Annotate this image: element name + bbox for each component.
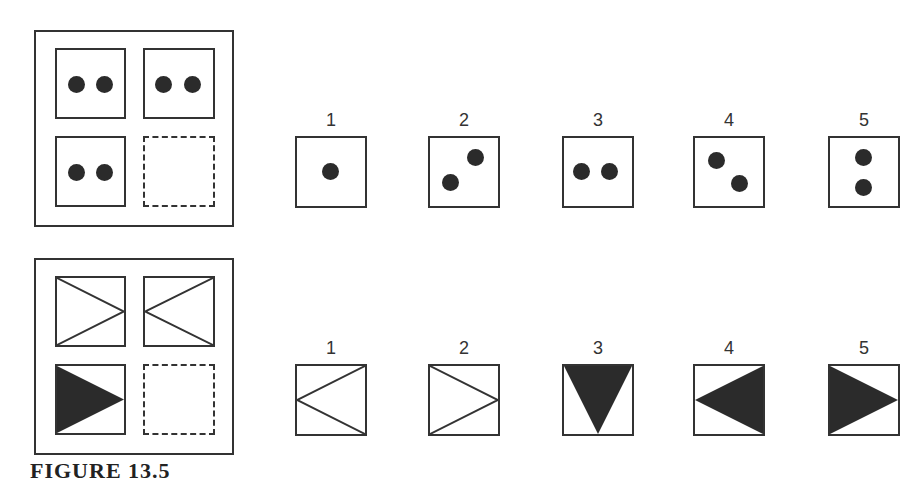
option-2-5-label: 5: [828, 338, 900, 359]
option-1-3[interactable]: [562, 136, 634, 208]
option-2-3[interactable]: [562, 364, 634, 436]
matrix-2-cell-bottom-left: [55, 364, 126, 435]
figure-caption: FIGURE 13.5: [30, 458, 171, 482]
option-1-1-label: 1: [295, 110, 367, 131]
dot-icon: [708, 152, 725, 169]
dot-icon: [573, 163, 590, 180]
option-2-4-label: 4: [693, 338, 765, 359]
option-1-3-label: 3: [562, 110, 634, 131]
dot-icon: [96, 76, 113, 93]
option-2-1-label: 1: [295, 338, 367, 359]
option-2-2[interactable]: [428, 364, 500, 436]
matrix-2: [34, 258, 234, 455]
option-1-4-label: 4: [693, 110, 765, 131]
matrix-1-cell-top-right: [143, 48, 215, 119]
dot-icon: [155, 76, 172, 93]
option-2-2-label: 2: [428, 338, 500, 359]
matrix-1-cell-top-left: [55, 48, 126, 119]
matrix-2-cell-top-right: [143, 276, 215, 347]
filled-triangle-right-icon: [830, 366, 898, 434]
option-1-1[interactable]: [295, 136, 367, 208]
option-1-5[interactable]: [828, 136, 900, 208]
outline-triangle-right-icon: [430, 366, 498, 434]
matrix-2-cell-top-left: [55, 276, 126, 347]
option-1-2-label: 2: [428, 110, 500, 131]
dot-icon: [68, 76, 85, 93]
dot-icon: [322, 163, 339, 180]
option-2-5[interactable]: [828, 364, 900, 436]
matrix-2-cell-missing: [143, 364, 215, 435]
dot-icon: [96, 164, 113, 181]
option-2-1[interactable]: [295, 364, 367, 436]
dot-icon: [855, 179, 872, 196]
dot-icon: [855, 149, 872, 166]
option-1-2[interactable]: [428, 136, 500, 208]
filled-triangle-left-icon: [695, 366, 763, 434]
dot-icon: [184, 76, 201, 93]
option-2-4[interactable]: [693, 364, 765, 436]
matrix-1-cell-missing: [143, 136, 215, 207]
outline-triangle-right-icon: [57, 278, 124, 345]
option-2-3-label: 3: [562, 338, 634, 359]
filled-triangle-down-icon: [564, 366, 632, 434]
outline-triangle-left-icon: [145, 278, 213, 345]
dot-icon: [601, 163, 618, 180]
filled-triangle-right-icon: [57, 366, 124, 433]
matrix-1: [34, 30, 234, 227]
dot-icon: [68, 164, 85, 181]
option-1-5-label: 5: [828, 110, 900, 131]
dot-icon: [467, 149, 484, 166]
matrix-1-cell-bottom-left: [55, 136, 126, 207]
dot-icon: [731, 175, 748, 192]
outline-triangle-left-icon: [297, 366, 365, 434]
option-1-4[interactable]: [693, 136, 765, 208]
dot-icon: [442, 174, 459, 191]
